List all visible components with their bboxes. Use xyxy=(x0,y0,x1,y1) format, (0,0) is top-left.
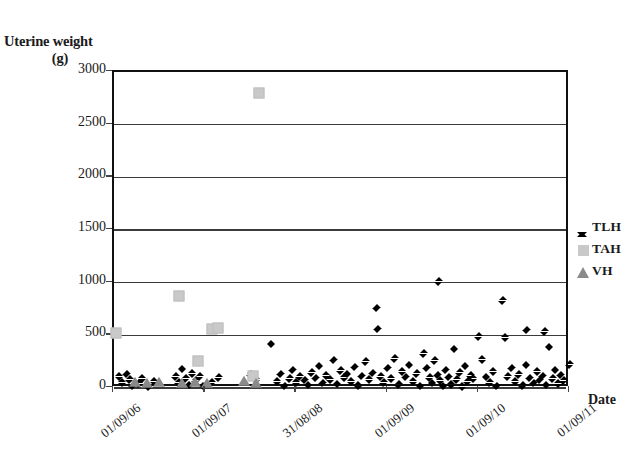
data-point-tlh xyxy=(215,369,223,377)
data-points xyxy=(114,72,566,384)
data-point-vh xyxy=(238,376,250,386)
data-point-tlh xyxy=(178,361,186,369)
x-tick-label: 01/09/09 xyxy=(371,400,417,441)
data-point-tah xyxy=(193,356,204,367)
x-tick-mark xyxy=(386,386,387,392)
x-tick-mark xyxy=(203,386,204,392)
data-point-tlh xyxy=(469,370,477,378)
data-point-tlh xyxy=(277,366,285,374)
plot-area xyxy=(112,70,568,386)
data-point-tlh xyxy=(330,352,338,360)
data-point-tlh xyxy=(541,323,549,331)
y-tick-label: 1500 xyxy=(46,219,106,235)
x-tick-label: 31/08/08 xyxy=(280,400,326,441)
data-point-tlh xyxy=(539,368,547,376)
data-point-tlh xyxy=(493,378,501,386)
y-tick-label: 0 xyxy=(46,377,106,393)
data-point-tlh xyxy=(522,357,530,365)
scatter-chart: Uterine weight (g) 300025002000150010005… xyxy=(0,0,640,460)
diamond-marker-icon xyxy=(576,220,590,234)
y-tick-label: 2000 xyxy=(46,166,106,182)
data-point-tlh xyxy=(523,322,531,330)
data-point-vh xyxy=(189,377,201,387)
data-point-tlh xyxy=(267,336,275,344)
x-tick-label: 01/09/06 xyxy=(98,400,144,441)
x-tick-mark xyxy=(112,386,113,392)
data-point-tlh xyxy=(413,365,421,373)
x-tick-label: 01/09/10 xyxy=(462,400,508,441)
data-point-vh xyxy=(129,377,141,387)
triangle-marker-icon xyxy=(576,264,590,278)
data-point-tlh xyxy=(499,292,507,300)
data-point-vh xyxy=(176,378,188,388)
y-tick-label: 500 xyxy=(46,324,106,340)
data-point-tlh xyxy=(478,351,486,359)
y-tick-label: 3000 xyxy=(46,61,106,77)
data-point-tlh xyxy=(560,372,568,380)
data-point-vh xyxy=(141,378,153,388)
data-point-vh xyxy=(153,377,165,387)
legend-item-tlh: TLH xyxy=(576,216,621,238)
data-point-tlh xyxy=(420,345,428,353)
x-tick-mark xyxy=(477,386,478,392)
data-point-tah xyxy=(254,88,265,99)
x-tick-label: 01/09/07 xyxy=(189,400,235,441)
data-point-tah xyxy=(173,291,184,302)
data-point-tlh xyxy=(196,368,204,376)
data-point-tlh xyxy=(489,363,497,371)
data-point-tlh xyxy=(501,329,509,337)
data-point-tlh xyxy=(315,358,323,366)
y-axis-title-line1: Uterine weight xyxy=(4,33,122,50)
x-tick-mark xyxy=(294,386,295,392)
data-point-tlh xyxy=(545,339,553,347)
data-point-tlh xyxy=(374,321,382,329)
legend-item-vh: VH xyxy=(576,260,621,282)
legend-item-tah: TAH xyxy=(576,238,621,260)
legend-label-vh: VH xyxy=(592,263,613,279)
data-point-tlh xyxy=(362,353,370,361)
data-point-vh xyxy=(250,378,262,388)
x-axis-title: Date xyxy=(588,392,616,408)
data-point-tah xyxy=(111,328,122,339)
x-tick-mark xyxy=(568,386,569,392)
data-point-tah xyxy=(212,323,223,334)
data-point-tlh xyxy=(373,300,381,308)
data-point-tlh xyxy=(566,356,574,364)
data-point-tlh xyxy=(450,341,458,349)
legend: TLH TAH VH xyxy=(576,216,621,282)
data-point-tlh xyxy=(391,350,399,358)
data-point-tlh xyxy=(351,359,359,367)
y-tick-label: 1000 xyxy=(46,272,106,288)
legend-label-tlh: TLH xyxy=(592,219,621,235)
data-point-tlh xyxy=(475,328,483,336)
data-point-tlh xyxy=(405,357,413,365)
square-marker-icon xyxy=(576,242,590,256)
data-point-tlh xyxy=(461,358,469,366)
y-tick-label: 2500 xyxy=(46,114,106,130)
data-point-tlh xyxy=(416,378,424,386)
data-point-tlh xyxy=(431,352,439,360)
data-point-tlh xyxy=(435,273,443,281)
legend-label-tah: TAH xyxy=(592,241,621,257)
